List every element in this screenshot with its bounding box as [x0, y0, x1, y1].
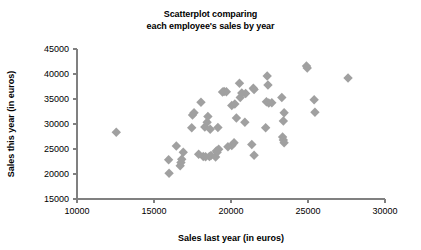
data-point-marker	[247, 140, 256, 149]
axes	[77, 49, 385, 199]
data-point-marker	[279, 116, 288, 125]
y-axis-title: Sales this year (in euros)	[6, 71, 16, 178]
y-tick-label: 30000	[44, 119, 69, 129]
data-point-marker	[179, 148, 188, 157]
data-point-marker	[249, 151, 258, 160]
data-point-marker	[310, 108, 319, 117]
data-point-marker	[261, 123, 270, 132]
data-point-marker	[277, 93, 286, 102]
data-point-marker	[309, 95, 318, 104]
data-point-marker	[232, 113, 241, 122]
x-axis-title: Sales last year (in euros)	[178, 233, 284, 243]
data-point-marker	[240, 118, 249, 127]
y-tick-label: 20000	[44, 169, 69, 179]
data-point-marker	[187, 123, 196, 132]
data-point-marker	[164, 155, 173, 164]
data-point-marker	[235, 79, 244, 88]
plot-area: 15000200002500030000350004000045000 1000…	[0, 0, 421, 250]
x-tick-label: 15000	[141, 206, 166, 216]
x-axis-ticks: 1000015000200002500030000	[64, 199, 397, 216]
data-point-marker	[343, 73, 352, 82]
data-point-marker	[203, 112, 212, 121]
x-tick-label: 10000	[64, 206, 89, 216]
data-markers	[112, 61, 353, 178]
scatterplot-figure: Scatterplot comparing each employee's sa…	[0, 0, 421, 250]
data-point-marker	[196, 98, 205, 107]
y-tick-label: 40000	[44, 69, 69, 79]
x-tick-label: 20000	[218, 206, 243, 216]
y-tick-label: 25000	[44, 144, 69, 154]
data-point-marker	[164, 169, 173, 178]
y-axis-ticks: 15000200002500030000350004000045000	[44, 44, 77, 204]
data-point-marker	[112, 128, 121, 137]
y-tick-label: 35000	[44, 94, 69, 104]
data-point-marker	[262, 71, 271, 80]
data-point-marker	[263, 80, 272, 89]
y-tick-label: 45000	[44, 44, 69, 54]
data-point-marker	[172, 141, 181, 150]
x-tick-label: 30000	[372, 206, 397, 216]
y-tick-label: 15000	[44, 194, 69, 204]
data-point-marker	[279, 108, 288, 117]
x-tick-label: 25000	[295, 206, 320, 216]
data-point-marker	[213, 123, 222, 132]
